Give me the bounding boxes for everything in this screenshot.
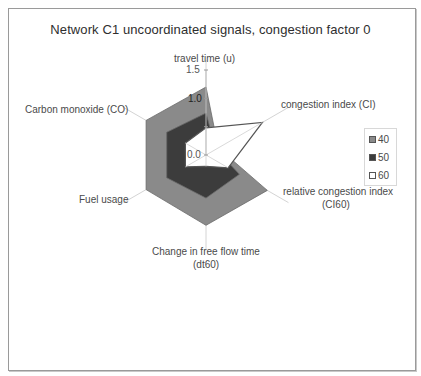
- axis-label-travel-time: travel time (u): [174, 53, 235, 65]
- legend-swatch-40: [369, 136, 376, 143]
- tick-label-0-0: 0.0: [187, 149, 201, 160]
- legend: 40 50 60: [364, 128, 397, 186]
- legend-swatch-50: [369, 154, 376, 161]
- axis-label-relative-ci: relative congestion index: [283, 186, 393, 198]
- axis-label-relative-ci-2: (CI60): [322, 199, 350, 211]
- legend-item-60: 60: [369, 169, 389, 181]
- axis-label-fuel: Fuel usage: [79, 194, 128, 206]
- axis-label-dt60: Change in free flow time: [152, 246, 260, 258]
- tick-label-1-5: 1.5: [186, 64, 200, 75]
- legend-item-50: 50: [369, 151, 389, 163]
- legend-item-40: 40: [369, 133, 389, 145]
- axis-label-dt60-2: (dt60): [193, 259, 219, 271]
- legend-label-40: 40: [378, 134, 389, 145]
- axis-label-co: Carbon monoxide (CO): [25, 104, 128, 116]
- tick-label-1-0: 1.0: [188, 93, 202, 104]
- legend-label-50: 50: [378, 152, 389, 163]
- legend-label-60: 60: [378, 170, 389, 181]
- axis-label-congestion-index: congestion index (CI): [281, 99, 376, 111]
- legend-swatch-60: [369, 172, 376, 179]
